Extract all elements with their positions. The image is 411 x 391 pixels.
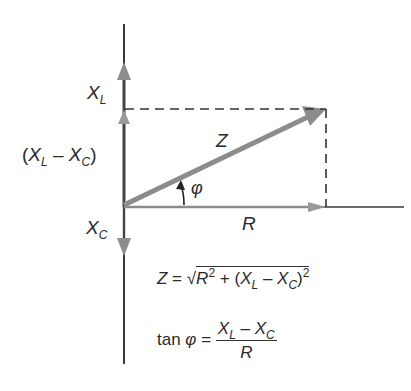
xc-label: XC [86, 218, 107, 237]
phase-fraction: XL – XC R [216, 320, 277, 361]
z-label: Z [216, 131, 228, 150]
xc-vector [117, 207, 131, 256]
r-label: R [242, 214, 256, 233]
impedance-equation: Z = √R2 + (XL – XC)2 [157, 270, 309, 287]
xl-label: XL [87, 83, 106, 102]
phi-label: φ [191, 179, 203, 197]
xl-minus-xc-label: (XL – XC) [22, 145, 97, 164]
phi-angle-arc [176, 180, 185, 205]
phase-equation: tan φ = XL – XC R [157, 320, 277, 361]
z-vector [124, 106, 326, 205]
r-vector [124, 202, 326, 212]
xl-vector [117, 62, 131, 207]
xl-minus-xc-vector [118, 110, 130, 124]
